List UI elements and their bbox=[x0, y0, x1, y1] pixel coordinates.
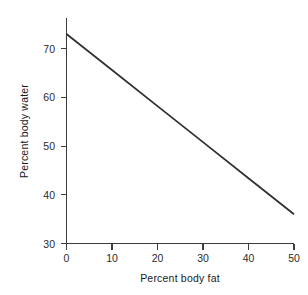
line-chart: 30 40 50 60 70 0 10 20 30 40 50 Percent … bbox=[0, 0, 308, 295]
y-tick-label-40: 40 bbox=[43, 189, 55, 201]
y-tick-label-50: 50 bbox=[43, 140, 55, 152]
x-tick-label-10: 10 bbox=[106, 252, 118, 264]
x-tick-label-0: 0 bbox=[64, 252, 70, 264]
y-tick-label-60: 60 bbox=[43, 91, 55, 103]
chart-container: 30 40 50 60 70 0 10 20 30 40 50 Percent … bbox=[0, 0, 308, 295]
x-tick-label-30: 30 bbox=[197, 252, 209, 264]
x-tick-label-50: 50 bbox=[288, 252, 300, 264]
x-tick-label-40: 40 bbox=[243, 252, 255, 264]
y-tick-label-70: 70 bbox=[43, 43, 55, 55]
x-axis-title: Percent body fat bbox=[140, 272, 220, 284]
y-tick-label-30: 30 bbox=[43, 238, 55, 250]
y-axis-title: Percent body water bbox=[18, 84, 30, 178]
x-tick-label-20: 20 bbox=[152, 252, 164, 264]
